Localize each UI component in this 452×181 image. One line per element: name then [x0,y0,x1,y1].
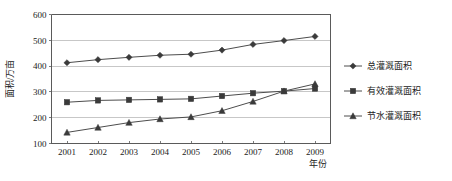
legend-item-3[interactable]: 节水灌溉面积 [344,110,421,121]
diamond-marker [64,60,70,66]
square-marker [219,93,224,98]
chart-legend: 总灌溉面积有效灌溉面积节水灌溉面积 [344,60,421,121]
x-tick-label-2008: 2008 [275,147,294,157]
diamond-marker [219,47,225,53]
grid-lines [52,15,331,118]
axis-lines [52,15,331,144]
diamond-marker [188,51,194,57]
x-tick-label-2003: 2003 [120,147,139,157]
y-tick-label-500: 500 [33,36,47,46]
square-marker [64,100,69,105]
diamond-marker [250,41,256,47]
chart-figure: 100200300400500600 200120022003200420052… [0,0,452,181]
triangle-marker [312,81,318,87]
x-axis-title: 年份 [309,158,327,169]
x-tick-label-2007: 2007 [244,147,263,157]
square-marker [188,96,193,101]
legend-item-2[interactable]: 有效灌溉面积 [344,85,421,96]
x-axis-ticks: 200120022003200420052006200720082009 [58,141,325,157]
legend-label-2: 有效灌溉面积 [367,85,421,96]
y-tick-label-300: 300 [33,87,47,97]
legend-item-1[interactable]: 总灌溉面积 [344,60,412,71]
y-axis-title: 面积/万亩 [4,60,15,99]
x-tick-label-2006: 2006 [213,147,232,157]
diamond-marker [350,63,356,69]
x-tick-label-2002: 2002 [89,147,107,157]
square-marker [157,97,162,102]
x-tick-label-2005: 2005 [182,147,201,157]
square-marker [250,90,255,95]
diamond-marker [281,37,287,43]
x-tick-label-2004: 2004 [151,147,170,157]
y-axis-ticks: 100200300400500600 [33,10,52,149]
data-series [64,33,318,135]
square-marker [126,97,131,102]
series-3 [64,81,318,135]
square-marker [95,98,100,103]
series-2 [64,86,317,105]
diamond-marker [157,52,163,58]
y-tick-label-100: 100 [33,139,47,149]
legend-label-3: 节水灌溉面积 [367,110,421,121]
y-tick-label-400: 400 [33,61,47,71]
x-tick-label-2001: 2001 [58,147,76,157]
diamond-marker [126,54,132,60]
legend-label-1: 总灌溉面积 [367,60,412,71]
diamond-marker [95,57,101,63]
line-chart: 100200300400500600 200120022003200420052… [0,0,452,181]
y-tick-label-600: 600 [33,10,47,20]
diamond-marker [312,33,318,39]
x-tick-label-2009: 2009 [306,147,325,157]
square-marker [350,88,355,93]
series-1 [64,33,318,66]
y-tick-label-200: 200 [33,113,47,123]
